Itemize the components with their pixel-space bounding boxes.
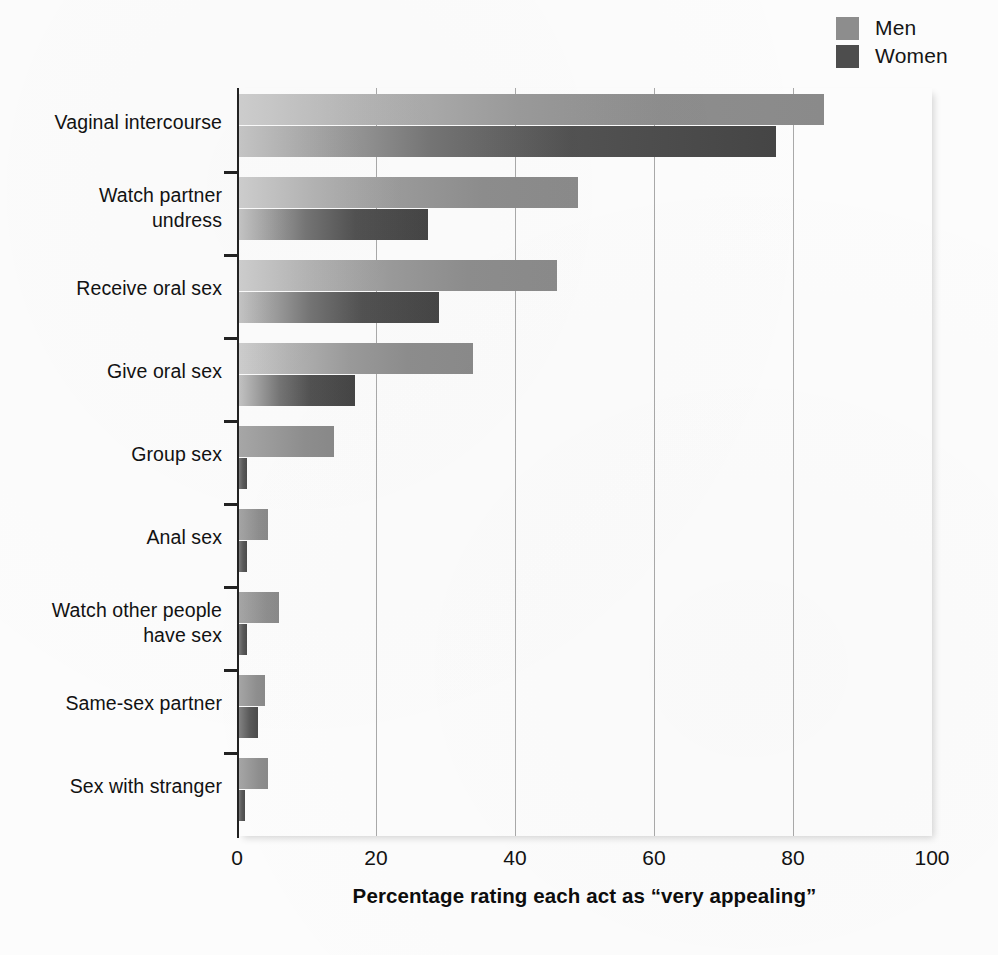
y-axis-tick-5 (224, 503, 238, 506)
x-tick-60: 60 (642, 845, 665, 871)
category-label-group-sex: Group sex (6, 442, 222, 467)
bar-group-watch-partner-undress (237, 171, 932, 254)
category-label-vaginal-intercourse: Vaginal intercourse (6, 110, 222, 135)
bar-men-watch-partner-undress (237, 177, 578, 208)
bar-group-watch-other-people-have-sex (237, 586, 932, 669)
bar-group-group-sex (237, 420, 932, 503)
bar-men-give-oral-sex (237, 343, 473, 374)
y-axis-line (237, 88, 239, 838)
bar-group-anal-sex (237, 503, 932, 586)
y-axis-tick-7 (224, 669, 238, 672)
category-axis-labels: Vaginal intercourse Watch partner undres… (0, 88, 222, 836)
bar-group-receive-oral-sex (237, 254, 932, 337)
y-axis-tick-4 (224, 420, 238, 423)
category-label-same-sex-partner: Same-sex partner (6, 691, 222, 716)
bar-chart: Vaginal intercourse Watch partner undres… (0, 0, 998, 955)
category-label-watch-partner-undress: Watch partner undress (6, 183, 222, 233)
bar-men-anal-sex (237, 509, 268, 540)
bar-group-vaginal-intercourse (237, 88, 932, 171)
bar-group-sex-with-stranger (237, 752, 932, 835)
plot-inner (237, 88, 932, 836)
x-tick-0: 0 (231, 845, 243, 871)
category-label-watch-other-people-have-sex: Watch other people have sex (6, 598, 222, 648)
bar-men-vaginal-intercourse (237, 94, 824, 125)
bar-men-same-sex-partner (237, 675, 265, 706)
x-tick-40: 40 (503, 845, 526, 871)
bar-men-sex-with-stranger (237, 758, 268, 789)
category-label-sex-with-stranger: Sex with stranger (6, 774, 222, 799)
category-label-anal-sex: Anal sex (6, 525, 222, 550)
y-axis-tick-8 (224, 752, 238, 755)
bar-women-watch-partner-undress (237, 209, 428, 240)
x-tick-20: 20 (364, 845, 387, 871)
y-axis-tick-6 (224, 586, 238, 589)
plot-area (237, 88, 932, 836)
bar-women-give-oral-sex (237, 375, 355, 406)
y-axis-tick-2 (224, 254, 238, 257)
x-tick-80: 80 (781, 845, 804, 871)
bar-group-give-oral-sex (237, 337, 932, 420)
bar-men-receive-oral-sex (237, 260, 557, 291)
bar-men-group-sex (237, 426, 334, 457)
category-label-give-oral-sex: Give oral sex (6, 359, 222, 384)
bar-group-same-sex-partner (237, 669, 932, 752)
y-axis-tick-3 (224, 337, 238, 340)
bar-men-watch-other-people-have-sex (237, 592, 279, 623)
bar-women-same-sex-partner (237, 707, 258, 738)
bar-women-vaginal-intercourse (237, 126, 776, 157)
x-axis-tick-labels: 0 20 40 60 80 100 (0, 845, 998, 877)
bar-women-receive-oral-sex (237, 292, 439, 323)
x-tick-100: 100 (914, 845, 949, 871)
x-axis-title: Percentage rating each act as “very appe… (237, 884, 932, 908)
category-label-receive-oral-sex: Receive oral sex (6, 276, 222, 301)
y-axis-tick-1 (224, 171, 238, 174)
